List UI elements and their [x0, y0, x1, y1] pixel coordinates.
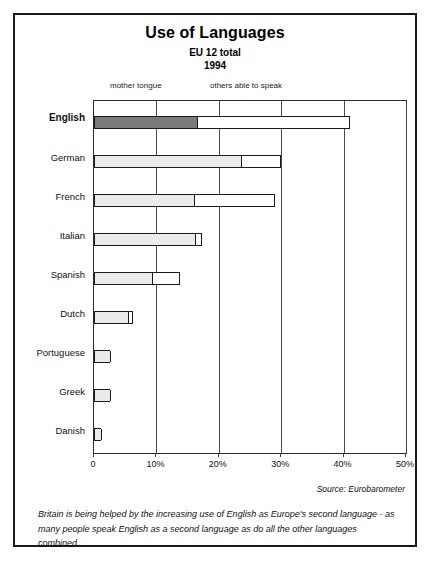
- tick-mark-30%: [280, 453, 281, 457]
- bar-mother-tongue-portuguese: [95, 351, 111, 362]
- tick-mark-40%: [343, 453, 344, 457]
- chart-subtitle-region: EU 12 total: [15, 46, 415, 59]
- bar-total-german: [94, 155, 281, 168]
- tick-label-40%: 40%: [334, 459, 352, 469]
- category-label-greek: Greek: [59, 386, 85, 397]
- table-row: English: [94, 105, 406, 144]
- category-label-spanish: Spanish: [51, 269, 85, 280]
- tick-label-0: 0: [90, 459, 95, 469]
- bar-total-spanish: [94, 272, 180, 285]
- legend-item-others-able-to-speak: others able to speak: [210, 81, 282, 90]
- table-row: Portuguese: [94, 339, 406, 378]
- category-label-english: English: [49, 112, 85, 123]
- bar-mother-tongue-spanish: [95, 273, 153, 284]
- page-title: Use of Languages: [15, 23, 415, 42]
- bar-total-italian: [94, 233, 202, 246]
- bar-mother-tongue-german: [95, 156, 242, 167]
- bar-rows: EnglishGermanFrenchItalianSpanishDutchPo…: [94, 101, 406, 453]
- table-row: French: [94, 183, 406, 222]
- table-row: Dutch: [94, 300, 406, 339]
- category-label-german: German: [51, 152, 85, 163]
- bar-mother-tongue-greek: [95, 390, 111, 401]
- category-label-portuguese: Portuguese: [36, 347, 85, 358]
- gridline-50%: [406, 101, 407, 453]
- table-row: Italian: [94, 222, 406, 261]
- category-label-dutch: Dutch: [60, 308, 85, 319]
- plot-area: EnglishGermanFrenchItalianSpanishDutchPo…: [93, 100, 407, 454]
- legend-item-mother-tongue: mother tongue: [110, 81, 162, 90]
- tick-label-20%: 20%: [209, 459, 227, 469]
- title-block: Use of Languages EU 12 total 1994: [15, 15, 415, 72]
- table-row: Greek: [94, 378, 406, 417]
- tick-label-50%: 50%: [396, 459, 414, 469]
- bar-total-french: [94, 194, 275, 207]
- table-row: German: [94, 144, 406, 183]
- bar-mother-tongue-dutch: [95, 312, 129, 323]
- bar-mother-tongue-danish: [95, 429, 102, 440]
- bar-mother-tongue-english: [95, 117, 198, 128]
- category-label-french: French: [55, 191, 85, 202]
- bar-total-dutch: [94, 311, 133, 324]
- bar-total-danish: [94, 428, 101, 441]
- tick-mark-50%: [405, 453, 406, 457]
- bar-total-greek: [94, 389, 110, 402]
- chart-legend: mother tongue others able to speak: [15, 81, 415, 97]
- tick-mark-20%: [218, 453, 219, 457]
- table-row: Danish: [94, 417, 406, 456]
- category-label-danish: Danish: [55, 425, 85, 436]
- figure-caption: Britain is being helped by the increasin…: [38, 507, 397, 551]
- tick-mark-10%: [155, 453, 156, 457]
- table-row: Spanish: [94, 261, 406, 300]
- figure-panel: Use of Languages EU 12 total 1994 mother…: [13, 13, 417, 547]
- bar-total-portuguese: [94, 350, 110, 363]
- x-axis: 010%20%30%40%50%: [93, 453, 405, 475]
- tick-label-30%: 30%: [271, 459, 289, 469]
- bar-mother-tongue-italian: [95, 234, 196, 245]
- chart-subtitle-year: 1994: [15, 59, 415, 72]
- tick-mark-0: [93, 453, 94, 457]
- source-note: Source: Eurobarometer: [317, 484, 405, 494]
- bar-mother-tongue-french: [95, 195, 195, 206]
- category-label-italian: Italian: [60, 230, 85, 241]
- tick-label-10%: 10%: [146, 459, 164, 469]
- bar-total-english: [94, 116, 350, 129]
